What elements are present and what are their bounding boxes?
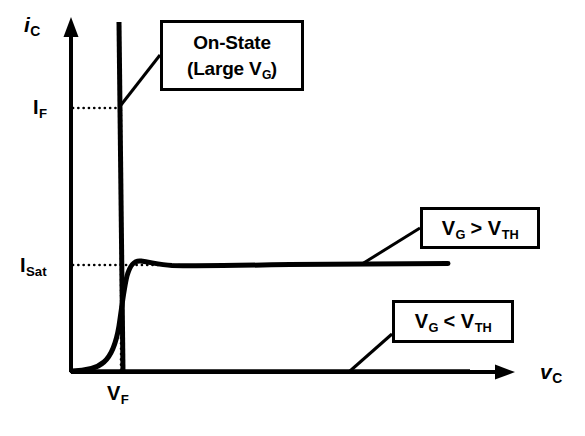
y-tick-label-isat: ISat	[20, 255, 46, 275]
callout-on-state-line1: On-State	[193, 32, 271, 54]
y-axis-arrowhead	[64, 17, 79, 37]
callout-vg-lt-text: VG < VTH	[415, 310, 492, 333]
y-axis-label: iC	[24, 14, 40, 35]
callout-vg-less-than-vth: VG < VTH	[392, 300, 514, 343]
x-axis-arrowhead	[495, 365, 515, 380]
callout-vg-greater-than-vth: VG > VTH	[420, 207, 540, 249]
leader-vg-lt-vth	[350, 334, 392, 371]
leader-on-state	[121, 55, 160, 105]
y-axis	[64, 17, 79, 372]
x-tick-label-vf: VF	[107, 383, 128, 403]
x-axis-label: vC	[540, 361, 562, 382]
callout-on-state-line2: (Large VG)	[187, 58, 277, 80]
y-tick-label-if: IF	[33, 97, 47, 117]
iv-characteristic-figure: iC vC IF ISat VF On-State (Large VG) VG …	[0, 0, 585, 436]
callout-vg-gt-text: VG > VTH	[442, 217, 519, 240]
leader-vg-gt-vth	[362, 228, 420, 264]
callout-on-state: On-State (Large VG)	[160, 20, 304, 91]
